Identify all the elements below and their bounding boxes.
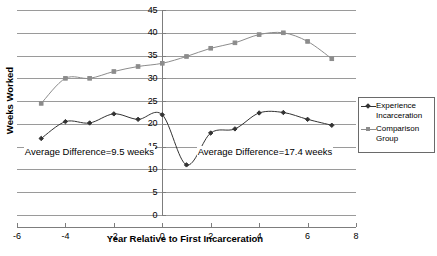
data-point-marker xyxy=(87,121,91,125)
legend-item-1[interactable]: ExperienceIncarceration xyxy=(361,101,432,120)
data-point-marker xyxy=(185,55,189,59)
data-point-marker xyxy=(257,33,261,37)
x-tick-label: 4 xyxy=(249,232,269,241)
x-tick-mark xyxy=(308,223,309,227)
series-2 xyxy=(39,31,333,105)
y-axis-title: Weeks Worked xyxy=(4,51,15,151)
series-1 xyxy=(39,110,334,167)
data-point-marker xyxy=(88,77,92,81)
series-lines xyxy=(17,10,356,215)
data-point-marker xyxy=(64,77,68,81)
data-point-marker xyxy=(209,46,213,50)
data-point-marker xyxy=(330,57,334,61)
data-point-marker xyxy=(39,102,43,106)
data-point-marker xyxy=(306,40,310,44)
y-tick-mark xyxy=(162,215,166,216)
chart-legend: ExperienceIncarcerationComparisonGroup xyxy=(358,97,435,153)
x-tick-mark xyxy=(65,223,66,227)
data-point-marker xyxy=(305,117,309,121)
x-tick-label: 6 xyxy=(298,232,318,241)
data-point-marker xyxy=(136,117,140,121)
x-tick-label: 2 xyxy=(201,232,221,241)
plot-area: 051015202530354045 -6-4-202468 Average D… xyxy=(17,10,356,215)
chart-container: Weeks Worked Year Relative to First Inca… xyxy=(0,0,437,256)
legend-item-2[interactable]: ComparisonGroup xyxy=(361,124,432,143)
data-point-marker xyxy=(63,119,67,123)
x-tick-mark xyxy=(114,223,115,227)
x-tick-mark xyxy=(211,223,212,227)
data-point-marker xyxy=(257,111,261,115)
gridline xyxy=(17,215,356,216)
x-tick-label: 8 xyxy=(346,232,366,241)
data-point-marker xyxy=(330,123,334,127)
x-tick-label: -6 xyxy=(7,232,27,241)
x-tick-mark xyxy=(17,223,18,227)
square-marker-icon xyxy=(361,125,376,134)
x-axis-line xyxy=(17,227,356,228)
data-point-marker xyxy=(233,41,237,45)
data-point-marker xyxy=(282,31,286,35)
series-line xyxy=(41,32,332,103)
x-tick-mark xyxy=(356,223,357,227)
data-point-marker xyxy=(112,70,116,74)
data-point-marker xyxy=(160,62,164,66)
data-point-marker xyxy=(281,110,285,114)
x-tick-mark xyxy=(259,223,260,227)
legend-label: ExperienceIncarceration xyxy=(376,101,422,120)
data-point-marker xyxy=(112,112,116,116)
data-point-marker xyxy=(233,127,237,131)
annotation-label: Average Difference=9.5 weeks xyxy=(24,146,155,157)
x-tick-label: -2 xyxy=(104,232,124,241)
x-tick-mark xyxy=(162,223,163,227)
legend-label: ComparisonGroup xyxy=(376,124,419,143)
x-tick-label: -4 xyxy=(55,232,75,241)
data-point-marker xyxy=(136,65,140,69)
x-tick-label: 0 xyxy=(152,232,172,241)
diamond-marker-icon xyxy=(361,102,376,111)
annotation-label: Average Difference=17.4 weeks xyxy=(197,146,334,157)
